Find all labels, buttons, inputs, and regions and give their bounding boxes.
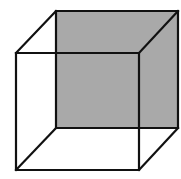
back-face-shaded — [56, 11, 178, 128]
necker-cube-diagram — [0, 0, 181, 179]
